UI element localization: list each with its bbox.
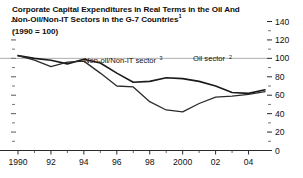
chart-plot-area: 020406080100120140 19909294969820000204 … [0,0,303,178]
y-tick-label: 40 [275,109,285,119]
x-tick-label: 94 [79,157,89,167]
x-tick-label: 96 [112,157,122,167]
y-tick-label: 120 [275,35,290,45]
y-tick-label: 80 [275,72,285,82]
x-tick-label: 2000 [173,157,192,167]
y-tick-label: 60 [275,90,285,100]
y-tick-label: 100 [275,53,290,63]
x-axis-tick-labels: 19909294969820000204 [8,157,253,167]
series-label: Oil sector [193,54,226,63]
y-tick-label: 140 [275,17,290,27]
series-label: Non-oil/Non-IT sector [84,56,156,65]
x-tick-label: 98 [145,157,155,167]
y-tick-label: 0 [275,146,280,156]
x-axis-ticks [18,151,249,155]
x-tick-label: 92 [46,157,56,167]
y-tick-label: 20 [275,127,285,137]
series-annotations: Oil sector2Non-oil/Non-IT sector3 [84,54,232,65]
y-axis-tick-labels: 020406080100120140 [275,17,290,156]
series-label-footnote-marker: 3 [160,55,163,61]
series-label-footnote-marker: 2 [229,54,232,60]
x-tick-label: 1990 [8,157,27,167]
x-tick-label: 02 [211,157,221,167]
chart-figure: Corporate Capital Expenditures in Real T… [0,0,303,178]
x-tick-label: 04 [244,157,254,167]
